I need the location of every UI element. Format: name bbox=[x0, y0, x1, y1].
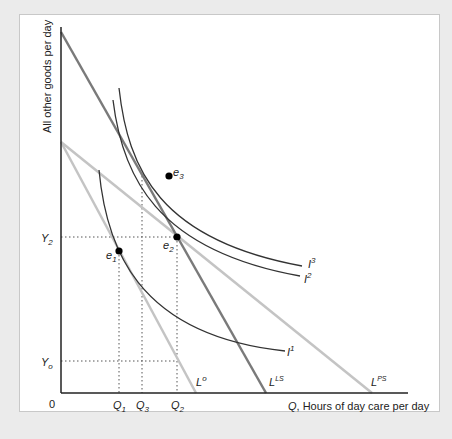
q2-tick-label: Q2 bbox=[171, 399, 185, 414]
e3-label: e3 bbox=[173, 166, 184, 181]
indifference-curve-i2 bbox=[113, 100, 300, 276]
equilibrium-point-e1 bbox=[115, 247, 122, 254]
q3-tick-label: Q3 bbox=[136, 399, 150, 414]
yo-tick-label: Yo bbox=[41, 356, 53, 371]
e1-label: e1 bbox=[106, 249, 117, 264]
y-axis-label: All other goods per day bbox=[41, 19, 53, 133]
x-axis-label: Q, Hours of day care per day bbox=[288, 400, 430, 412]
guide-lines bbox=[61, 176, 177, 393]
origin-label: 0 bbox=[49, 398, 55, 410]
lps-label: LPS bbox=[371, 375, 387, 388]
budget-line-lps bbox=[61, 142, 372, 393]
equilibrium-point-e3 bbox=[165, 172, 172, 179]
day-care-subsidy-diagram: All other goods per day Y2 Yo 0 Q1 Q3 Q2… bbox=[0, 0, 452, 439]
i3-label: I3 bbox=[308, 256, 316, 270]
lo-label: Lo bbox=[196, 374, 207, 388]
equilibrium-point-e2 bbox=[173, 233, 180, 240]
i2-label: I2 bbox=[304, 271, 312, 285]
e2-label: e2 bbox=[163, 239, 174, 254]
lls-label: LLS bbox=[269, 375, 284, 388]
y2-tick-label: Y2 bbox=[41, 232, 53, 247]
indifference-curve-i3 bbox=[119, 88, 302, 266]
q1-tick-label: Q1 bbox=[113, 399, 126, 414]
i1-label: I1 bbox=[287, 344, 295, 358]
budget-line-lls bbox=[61, 32, 266, 393]
